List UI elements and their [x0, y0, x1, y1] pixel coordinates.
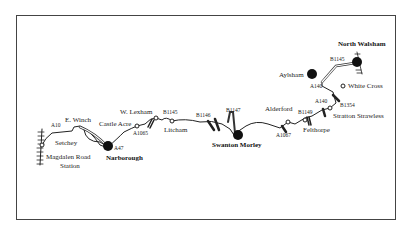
road-label-a47: A47 — [114, 146, 123, 152]
place-label-magdalen-road: Magdalen Road — [46, 154, 91, 161]
road-label-a140-stratton: A140 — [315, 99, 327, 105]
place-label-stratton-strawless: Stratton Strawless — [333, 113, 384, 120]
place-label-setchey: Setchey — [55, 140, 77, 147]
town-dot-north-walsham — [352, 57, 362, 67]
town-label-aylsham: Aylsham — [279, 72, 304, 79]
place-label-e-winch: E. Winch — [65, 117, 91, 124]
place-label-litcham: Litcham — [164, 127, 187, 134]
town-label-swanton-morley: Swanton Morley — [212, 142, 262, 149]
road-label-b1145-north: B1145 — [330, 57, 344, 63]
place-label-station: Station — [60, 163, 80, 170]
town-label-narborough: Narborough — [106, 155, 143, 162]
place-label-white-cross: White Cross — [348, 83, 383, 90]
town-dot-narborough — [103, 141, 113, 151]
road-label-b1145-litcham: B1145 — [163, 110, 177, 116]
road-label-b1149: B1149 — [298, 110, 312, 116]
road-label-b1147: B1147 — [226, 108, 240, 114]
road-label-a1067: A1067 — [276, 133, 291, 139]
road-label-a10: A10 — [51, 123, 60, 129]
road-label-b1146: B1146 — [196, 113, 210, 119]
town-dot-swanton-morley — [233, 130, 243, 140]
town-label-north-walsham: North Walsham — [338, 41, 386, 48]
place-label-alderford: Alderford — [265, 106, 293, 113]
place-label-w-lexham: W. Lexham — [120, 109, 152, 116]
road-label-a1065: A1065 — [133, 131, 148, 137]
town-dot-aylsham — [307, 69, 317, 79]
road-label-b1354: B1354 — [340, 103, 355, 109]
place-label-felthorpe: Felthorpe — [303, 127, 330, 134]
road-label-a140-aylsham: A140 — [310, 84, 322, 90]
place-label-castle-acre: Castle Acre — [99, 121, 131, 128]
